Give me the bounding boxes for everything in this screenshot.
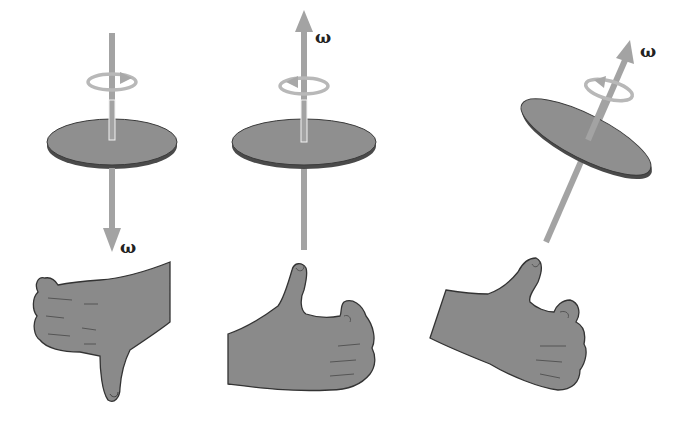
thumb-up-tilted-hand-icon [430, 258, 586, 390]
angular-velocity-arrow-icon [109, 168, 115, 230]
thumb-up-hand-icon [228, 264, 375, 391]
omega-label: ω [120, 237, 136, 257]
right-hand-rule-diagram: ω ω ω [0, 0, 695, 437]
spinning-disk-icon [47, 100, 177, 169]
thumb-down-hand-icon [33, 262, 170, 401]
panel-right: ω [430, 40, 661, 390]
arrowhead-up-icon [616, 40, 634, 64]
panel-middle: ω [228, 10, 376, 391]
arrowhead-up-icon [295, 10, 313, 32]
spinning-disk-icon [512, 85, 661, 194]
omega-label: ω [640, 41, 656, 61]
omega-label: ω [315, 27, 331, 47]
arrowhead-down-icon [103, 228, 121, 252]
spinning-disk-icon [232, 100, 376, 169]
panel-left: ω [33, 33, 177, 401]
